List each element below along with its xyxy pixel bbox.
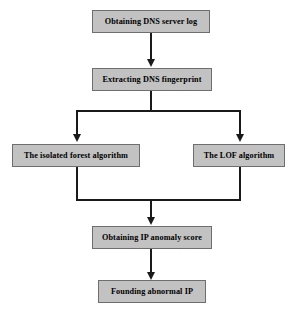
- merge-left-branch-line: [76, 167, 78, 201]
- fork-left-branch-line: [76, 110, 78, 135]
- merge-stem-line: [150, 199, 152, 218]
- node-isolated-forest-algorithm: The isolated forest algorithm: [12, 144, 140, 167]
- edge-score-to-abnormal-ip-line: [150, 249, 152, 273]
- node-lof-algorithm: The LOF algorithm: [193, 144, 285, 167]
- node-label: The isolated forest algorithm: [24, 151, 128, 160]
- node-label: The LOF algorithm: [204, 151, 275, 160]
- node-label: Obtaining DNS server log: [105, 17, 198, 26]
- node-obtaining-ip-anomaly-score: Obtaining IP anomaly score: [92, 226, 212, 249]
- node-obtaining-dns-server-log: Obtaining DNS server log: [92, 10, 210, 33]
- node-label: Founding abnormal IP: [111, 287, 193, 296]
- node-label: Obtaining IP anomaly score: [102, 233, 202, 242]
- edge-score-to-abnormal-ip-arrow: [147, 272, 155, 280]
- edge-log-to-fingerprint-arrow: [147, 59, 155, 67]
- fork-bar-line: [76, 110, 241, 112]
- edge-log-to-fingerprint-line: [150, 33, 152, 60]
- fork-left-branch-arrow: [73, 134, 81, 142]
- node-founding-abnormal-ip: Founding abnormal IP: [98, 280, 206, 303]
- fork-right-branch-arrow: [236, 134, 244, 142]
- flowchart-diagram: Obtaining DNS server log Extracting DNS …: [0, 0, 295, 313]
- fork-stem-line: [150, 91, 152, 112]
- merge-right-branch-line: [239, 167, 241, 201]
- node-extracting-dns-fingerprint: Extracting DNS fingerprint: [92, 68, 212, 91]
- fork-right-branch-line: [239, 110, 241, 135]
- merge-bar-line: [76, 199, 241, 201]
- node-label: Extracting DNS fingerprint: [102, 75, 201, 84]
- merge-stem-arrow: [147, 217, 155, 225]
